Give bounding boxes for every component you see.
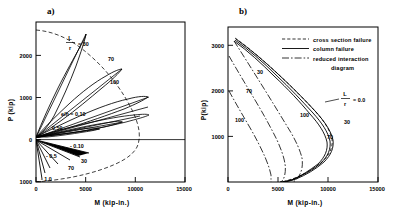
panel-a-xtick-0: 0 <box>34 186 37 192</box>
panel-a-tag: a) <box>47 6 55 16</box>
panel-a-xtick-2: 10000 <box>128 186 144 192</box>
panel-b-ytick-0: 3000 <box>212 43 224 49</box>
panel-a-ytick-2: 0 <box>29 137 32 143</box>
legend-label-column-failure: column failure <box>313 46 354 52</box>
panel-b-leader-line <box>325 99 339 102</box>
panel-b-ytick-2: 1000 <box>212 134 224 140</box>
panel-a-frame <box>36 22 185 182</box>
panel-a-y-ticks <box>36 55 41 181</box>
panel-b-label-left-100: 100 <box>235 117 244 123</box>
legend-label-cross-section-failure: cross section failure <box>313 37 372 43</box>
panel-b-reduced-diagram-lr30 <box>234 41 302 182</box>
panel-b-label-mid-100: 100 <box>300 112 309 118</box>
panel-b-legend: cross section failure column failure red… <box>282 37 372 71</box>
panel-a-label-70: 70 <box>108 56 114 62</box>
panel-a-label-eh-neg010: - 0.10 <box>70 143 84 149</box>
panel-a-svg: a) 2000 1000 0 1000 0 <box>0 0 197 219</box>
panel-a-slenderness-numerator: L <box>68 35 72 41</box>
panel-a-label-eh: e/h = 0.10 <box>61 111 85 117</box>
panel-b-label-left-30: 30 <box>257 69 263 75</box>
panel-b-label-left-70: 70 <box>246 88 252 94</box>
panel-b-reduced-diagram-lr100 <box>229 91 271 182</box>
panel-a-radial-eh-aux1 <box>36 107 148 138</box>
panel-a-label-lower-70: 70 <box>68 165 74 171</box>
panel-b: b) 3000 2000 1000 0 5000 10000 15000 <box>197 0 395 219</box>
panel-a-slenderness-denominator: r <box>69 45 72 51</box>
panel-a-ytick-3: 1000 <box>20 179 32 185</box>
panel-a-label-lower-30: 30 <box>81 158 87 164</box>
panel-b-xtick-3: 15000 <box>369 186 385 192</box>
panel-a-x-ticks <box>36 177 185 182</box>
panel-b-label-right-70: 70 <box>327 134 333 140</box>
panel-a-label-eh-050: 0.50 <box>52 125 63 131</box>
panel-b-slenderness-denominator: r <box>344 101 347 107</box>
panel-a-xlabel: M (kip-in.) <box>95 199 130 207</box>
legend-label-diagram: diagram <box>331 65 354 71</box>
panel-a-ytick-1: 1000 <box>20 95 32 101</box>
panel-a-label-100: 100 <box>110 79 119 85</box>
panel-a-label-eh-neg10: - 1.0 <box>41 176 52 182</box>
panel-b-slenderness-label: L r = 0.0 <box>325 91 365 107</box>
panel-a-xtick-3: 15000 <box>176 186 192 192</box>
panel-b-ylabel: P(kip) <box>200 100 208 120</box>
legend-label-reduced-interaction: reduced interaction <box>313 56 369 62</box>
panel-b-xlabel: M (kip-in.) <box>288 199 323 207</box>
panel-b-slenderness-numerator: L <box>343 91 347 97</box>
panel-b-xtick-1: 5000 <box>272 186 284 192</box>
panel-b-xtick-2: 10000 <box>320 186 336 192</box>
panel-a-ytick-0: 2000 <box>20 53 32 59</box>
panel-b-slenderness-value: = 0.0 <box>353 97 365 103</box>
panel-b-tag: b) <box>239 6 247 16</box>
panel-b-svg: b) 3000 2000 1000 0 5000 10000 15000 <box>197 0 395 219</box>
panel-a-ylabel: P (kip) <box>7 99 15 121</box>
panel-b-column-failure-lr70 <box>234 41 327 182</box>
panel-b-x-ticks <box>228 177 378 182</box>
panel-a: a) 2000 1000 0 1000 0 <box>0 0 197 219</box>
panel-b-label-right-30: 30 <box>344 119 350 125</box>
panel-a-slenderness-value: = 30 <box>78 41 89 47</box>
panel-a-xtick-1: 5000 <box>79 186 91 192</box>
panel-b-xtick-0: 0 <box>226 186 229 192</box>
panel-a-label-eh-neg05: - 0.5 <box>46 153 57 159</box>
panel-b-ytick-1: 2000 <box>212 88 224 94</box>
figure-root: a) 2000 1000 0 1000 0 <box>0 0 395 219</box>
